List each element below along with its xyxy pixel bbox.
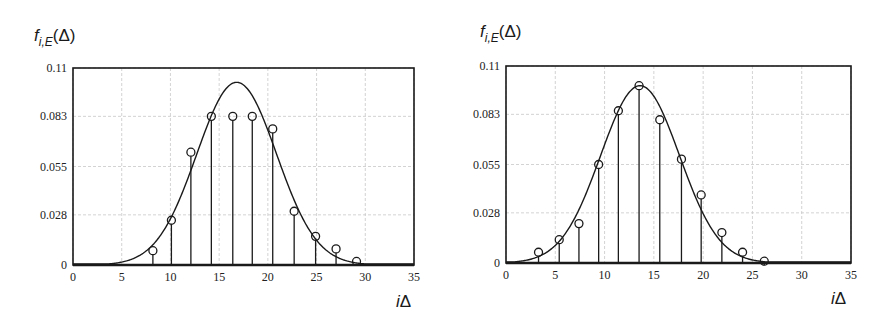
x-tick-label: 0 bbox=[70, 270, 76, 284]
data-point-circle bbox=[555, 236, 563, 244]
data-point-circle bbox=[290, 207, 298, 215]
y-tick-label: 0 bbox=[61, 258, 67, 272]
x-tick-label: 5 bbox=[552, 268, 558, 282]
data-point-circle bbox=[187, 148, 195, 156]
x-tick-label: 30 bbox=[796, 268, 808, 282]
x-tick-label: 10 bbox=[164, 270, 176, 284]
gridlines bbox=[506, 66, 851, 263]
x-tick-label: 35 bbox=[408, 270, 420, 284]
y-tick-label: 0.11 bbox=[479, 59, 500, 73]
x-tick-label: 25 bbox=[311, 270, 323, 284]
x-tick-label: 0 bbox=[503, 268, 509, 282]
y-tick-label: 0.083 bbox=[473, 107, 500, 121]
x-tick-label: 15 bbox=[213, 270, 225, 284]
x-tick-label: 25 bbox=[746, 268, 758, 282]
fitted-curve bbox=[73, 82, 414, 264]
x-tick-label: 10 bbox=[599, 268, 611, 282]
x-tick-label: 20 bbox=[262, 270, 274, 284]
x-tick-label: 20 bbox=[697, 268, 709, 282]
y-tick-label: 0.083 bbox=[40, 109, 67, 123]
data-point-circle bbox=[575, 220, 583, 228]
x-tick-label: 30 bbox=[359, 270, 371, 284]
chart-1-plot: 0510152025303500.0280.0550.0830.11 bbox=[473, 59, 857, 282]
data-point-circle bbox=[149, 247, 157, 255]
data-point-circle bbox=[269, 125, 277, 133]
x-tick-label: 15 bbox=[648, 268, 660, 282]
data-point-circle bbox=[739, 248, 747, 256]
y-tick-label: 0.055 bbox=[473, 158, 500, 172]
y-tick-label: 0.11 bbox=[46, 61, 67, 75]
data-point-circle bbox=[656, 116, 664, 124]
y-tick-label: 0.028 bbox=[40, 208, 67, 222]
data-point-circle bbox=[697, 191, 705, 199]
y-tick-label: 0.055 bbox=[40, 160, 67, 174]
data-point-circle bbox=[718, 229, 726, 237]
gridlines bbox=[73, 68, 414, 265]
chart-0-plot: 0510152025303500.0280.0550.0830.11 bbox=[40, 61, 420, 284]
data-point-circle bbox=[535, 248, 543, 256]
x-tick-label: 35 bbox=[845, 268, 857, 282]
plot-canvas: 0510152025303500.0280.0550.0830.11051015… bbox=[0, 0, 892, 330]
y-tick-label: 0.028 bbox=[473, 206, 500, 220]
x-tick-label: 5 bbox=[119, 270, 125, 284]
data-point-circle bbox=[332, 245, 340, 253]
y-tick-label: 0 bbox=[494, 256, 500, 270]
